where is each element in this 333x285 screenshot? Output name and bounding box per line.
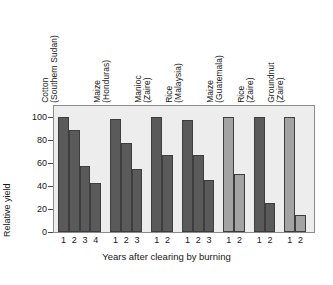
group-captions: Cotton(Southern Sudan)Maize(Honduras)Man…	[0, 0, 333, 105]
y-tick-label: 60	[37, 158, 47, 168]
x-tick-label: 3	[80, 234, 91, 246]
y-tick-label: 20	[37, 204, 47, 214]
x-tick-label: 3	[204, 234, 215, 246]
group-caption-place: (Southern Sudan)	[51, 35, 60, 103]
group-caption-place: (Zaire)	[246, 78, 255, 103]
x-tick-label: 2	[162, 234, 173, 246]
x-tick-label: 2	[234, 234, 245, 246]
group-caption-place: (Malaysia)	[175, 63, 184, 103]
x-tick-label: 2	[121, 234, 132, 246]
bar	[265, 203, 276, 232]
x-tick-label: 2	[193, 234, 204, 246]
group-caption: Manioc(Zaire)	[135, 75, 154, 103]
y-axis: Relative yield 020406080100	[0, 105, 54, 235]
x-tick-label: 1	[58, 234, 69, 246]
x-tick-label: 1	[151, 234, 162, 246]
bar	[151, 117, 162, 232]
bar	[80, 166, 91, 232]
group-caption: Rice(Zaire)	[237, 78, 256, 103]
group-caption: Groundnut(Zaire)	[268, 63, 287, 103]
bar	[284, 117, 295, 232]
x-axis-title: Years after clearing by burning	[0, 251, 333, 262]
group-caption: Cotton(Southern Sudan)	[41, 35, 60, 103]
bar	[193, 155, 204, 232]
group-caption: Rice(Malaysia)	[165, 63, 184, 103]
x-tick-labels: 123412312123121212	[53, 234, 315, 248]
group-caption-place: (Honduras)	[103, 60, 112, 103]
x-tick-label: 2	[295, 234, 306, 246]
bar	[132, 169, 143, 232]
y-tick-label: 0	[42, 227, 47, 237]
bar	[254, 117, 265, 232]
group-caption: Maize(Honduras)	[93, 60, 112, 103]
bar	[90, 183, 101, 232]
x-tick-label: 1	[254, 234, 265, 246]
group-caption-place: (Guatemala)	[216, 55, 225, 103]
x-tick-label: 4	[90, 234, 101, 246]
relative-yield-bar-chart: Cotton(Southern Sudan)Maize(Honduras)Man…	[0, 0, 333, 285]
y-axis-title: Relative yield	[2, 223, 12, 237]
x-tick-label: 2	[265, 234, 276, 246]
bar	[223, 117, 234, 232]
bar	[295, 215, 306, 232]
plot-area	[53, 105, 315, 233]
group-caption: Maize(Guatemala)	[207, 55, 226, 103]
y-tick-label: 100	[32, 112, 47, 122]
group-caption-place: (Zaire)	[277, 63, 286, 103]
x-tick-label: 2	[69, 234, 80, 246]
x-tick-label: 1	[182, 234, 193, 246]
bar	[162, 155, 173, 232]
bar	[121, 143, 132, 232]
bar	[69, 130, 80, 232]
x-tick-label: 1	[284, 234, 295, 246]
x-tick-label: 1	[110, 234, 121, 246]
bar	[234, 174, 245, 232]
bar	[110, 119, 121, 232]
x-tick-label: 1	[223, 234, 234, 246]
x-tick-label: 3	[132, 234, 143, 246]
group-caption-place: (Zaire)	[144, 75, 153, 103]
bar	[58, 117, 69, 232]
bar	[204, 180, 215, 232]
y-tick-label: 40	[37, 181, 47, 191]
bar	[182, 120, 193, 232]
bars-container	[54, 106, 314, 232]
y-tick-label: 80	[37, 135, 47, 145]
